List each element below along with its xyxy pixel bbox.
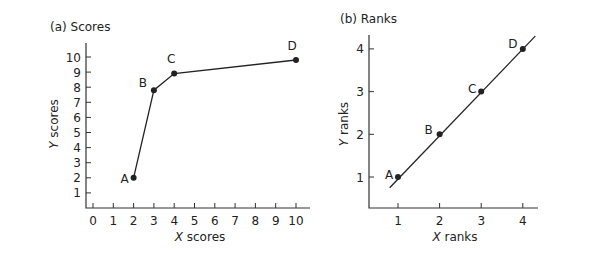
y-tick-label: 3 — [73, 156, 81, 170]
data-point-d — [293, 57, 299, 63]
x-tick-label: 1 — [394, 214, 402, 228]
y-tick-label: 2 — [73, 171, 81, 185]
y-axis-label: Y ranks — [337, 102, 351, 146]
chart-ranks: (b) Ranks12341234X ranksY ranksABCD — [337, 12, 538, 244]
chart-scores: (a) Scores01234567891012345678910X score… — [47, 20, 310, 244]
data-point-b — [437, 131, 443, 137]
x-tick-label: 4 — [170, 214, 178, 228]
y-tick-label: 6 — [73, 111, 81, 125]
y-tick-label: 1 — [356, 171, 364, 185]
x-tick-label: 4 — [519, 214, 527, 228]
figure: (a) Scores01234567891012345678910X score… — [0, 0, 615, 254]
point-label: C — [468, 82, 476, 96]
data-point-c — [478, 89, 484, 95]
point-label: B — [139, 76, 147, 90]
data-point-a — [131, 175, 137, 181]
y-tick-label: 4 — [356, 42, 364, 56]
data-line — [134, 60, 296, 178]
chart-title: (b) Ranks — [340, 12, 397, 26]
data-point-d — [520, 46, 526, 52]
trend-line — [390, 36, 536, 188]
point-label: B — [424, 123, 432, 137]
y-tick-label: 10 — [66, 51, 81, 65]
point-label: C — [167, 52, 175, 66]
point-label: D — [287, 39, 296, 53]
x-tick-label: 1 — [109, 214, 117, 228]
point-label: A — [120, 172, 129, 186]
y-tick-label: 2 — [356, 128, 364, 142]
point-label: D — [508, 37, 517, 51]
x-tick-label: 8 — [252, 214, 260, 228]
y-tick-label: 3 — [356, 85, 364, 99]
y-tick-label: 9 — [73, 66, 81, 80]
x-tick-label: 2 — [130, 214, 138, 228]
data-point-a — [395, 174, 401, 180]
data-point-c — [171, 71, 177, 77]
chart-title: (a) Scores — [50, 20, 110, 34]
point-label: A — [385, 168, 394, 182]
x-tick-label: 9 — [272, 214, 280, 228]
y-tick-label: 1 — [73, 186, 81, 200]
x-axis-label: X scores — [174, 230, 226, 244]
x-tick-label: 2 — [436, 214, 444, 228]
y-tick-label: 4 — [73, 141, 81, 155]
x-tick-label: 7 — [231, 214, 239, 228]
x-tick-label: 5 — [191, 214, 199, 228]
x-tick-label: 3 — [477, 214, 485, 228]
data-point-b — [151, 87, 157, 93]
x-tick-label: 3 — [150, 214, 158, 228]
y-axis-label: Y scores — [47, 99, 61, 149]
x-tick-label: 6 — [211, 214, 219, 228]
x-tick-label: 0 — [89, 214, 97, 228]
y-tick-label: 5 — [73, 126, 81, 140]
x-axis-label: X ranks — [431, 230, 477, 244]
x-tick-label: 10 — [288, 214, 303, 228]
y-tick-label: 8 — [73, 81, 81, 95]
y-tick-label: 7 — [73, 96, 81, 110]
